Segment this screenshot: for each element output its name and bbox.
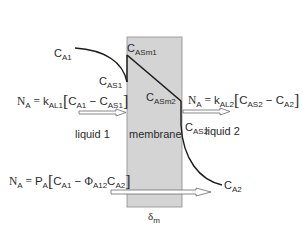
equation-liquid1-flux: NA = kAL1[CA1 − CAS1] [17, 93, 128, 110]
label-CA2: CA2 [224, 179, 242, 194]
label-CA1: CA1 [54, 47, 72, 62]
liquid1-flux-arrow [79, 109, 126, 116]
label-membrane: membrane [129, 128, 182, 140]
liquid2-flux-arrow [183, 108, 230, 115]
equation-overall-flux: NA = PA[CA1 − ΦA12CA2] [9, 173, 131, 190]
membrane-transport-diagram: CA1 CAS1 CASm1 CASm2 CAS2 CA2 liquid 1 m… [0, 0, 303, 233]
label-liquid2: liquid 2 [205, 125, 240, 137]
equation-liquid2-flux: NA = kAL2[CAS2 − CA2] [188, 92, 299, 109]
label-CAS1: CAS1 [99, 75, 123, 90]
label-membrane-thickness: δm [148, 210, 160, 225]
label-liquid1: liquid 1 [75, 128, 110, 140]
